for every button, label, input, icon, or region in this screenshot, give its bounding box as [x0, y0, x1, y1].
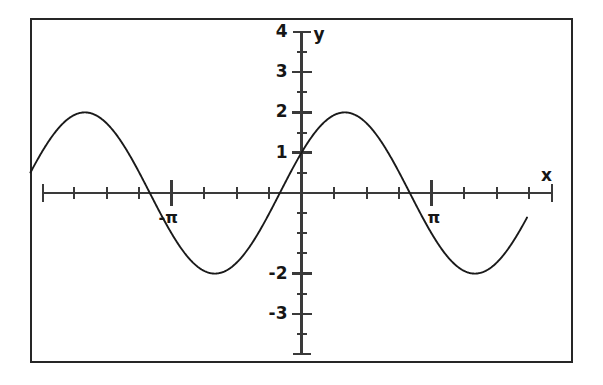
figure-root: 4321-2-3-ππyx	[0, 0, 603, 385]
y-tick-label-0: 4	[276, 23, 288, 40]
y-tick-label-2: 2	[276, 103, 288, 120]
y-tick-label-1: 3	[276, 63, 288, 80]
plot-frame-border	[30, 18, 573, 363]
y-tick-label-3: 1	[276, 144, 288, 161]
x-axis-name-label: x	[541, 167, 552, 184]
x-tick-label-neg-pi: -π	[159, 210, 178, 226]
y-tick-label-4: -2	[269, 265, 288, 282]
y-axis-name-label: y	[314, 26, 325, 43]
y-tick-label-5: -3	[269, 305, 288, 322]
x-tick-label-pi: π	[428, 210, 441, 226]
